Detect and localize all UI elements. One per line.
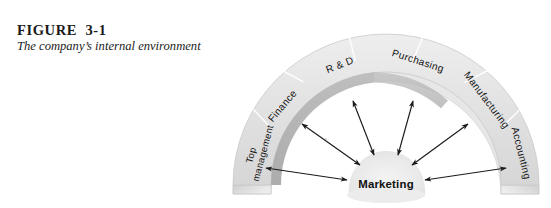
connector-arrow-r-and-d — [353, 101, 374, 155]
figure-caption: FIGURE 3-1 The company’s internal enviro… — [17, 22, 247, 54]
scan-speck — [325, 138, 327, 140]
figure-subtitle: The company’s internal environment — [17, 39, 247, 54]
figure-3-1-container: FIGURE 3-1 The company’s internal enviro… — [0, 0, 551, 208]
connector-arrow-accounting — [425, 168, 506, 180]
marketing-hub-label: Marketing — [358, 178, 414, 190]
connector-arrow-manufacturing — [412, 124, 468, 165]
arc-end-cap-left — [233, 185, 271, 194]
connector-arrow-finance — [302, 124, 360, 165]
arc-end-cap-right — [501, 185, 539, 194]
connector-arrow-purchasing — [398, 101, 413, 155]
internal-environment-diagram: Top management Finance R & D Purchasing … — [222, 14, 551, 208]
figure-number: FIGURE 3-1 — [17, 22, 247, 38]
